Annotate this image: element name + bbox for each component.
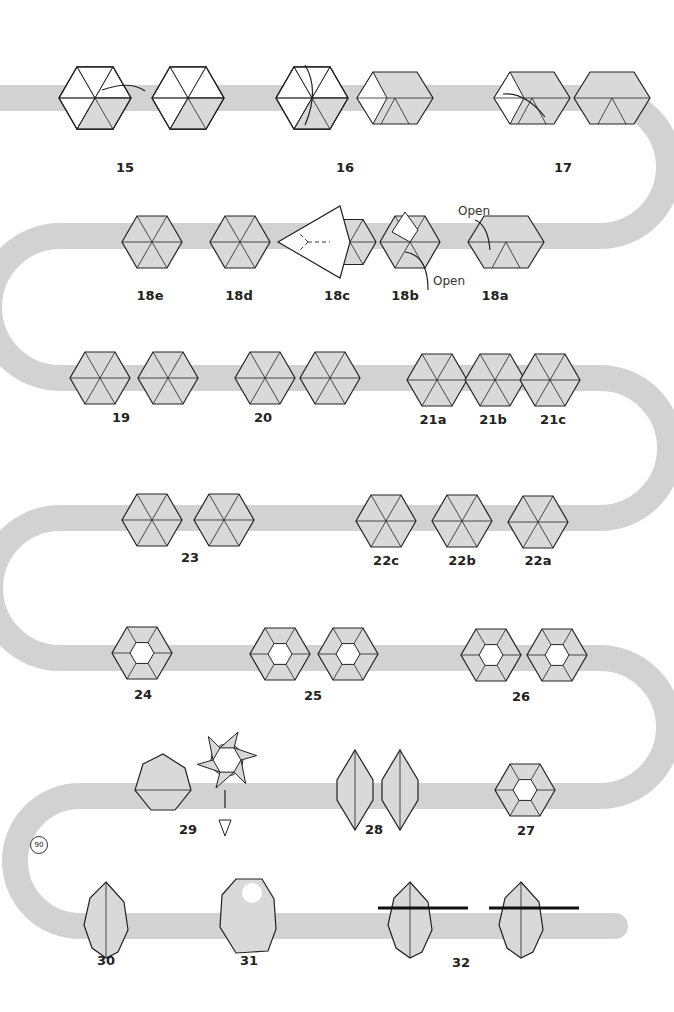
step-label-20: 20 xyxy=(254,410,272,425)
step-label-16: 16 xyxy=(336,160,354,175)
figure-hex-colored xyxy=(138,352,198,404)
figure-rhombus xyxy=(494,72,570,124)
arrows xyxy=(102,65,545,836)
figure-hex-colored xyxy=(235,352,295,404)
step-label-32: 32 xyxy=(452,955,470,970)
figure-hex-colored xyxy=(432,495,492,547)
figure-star xyxy=(197,732,256,788)
step-label-18c: 18c xyxy=(324,288,350,303)
figure-squeezed xyxy=(337,750,373,830)
figure-rhombus xyxy=(357,72,433,124)
figure-hex-center-open xyxy=(527,629,587,681)
step-label-18b: 18b xyxy=(391,288,418,303)
figure-hex-center-open xyxy=(250,628,310,680)
step-label-27: 27 xyxy=(517,823,535,838)
figure-squeezed xyxy=(382,750,418,830)
figure-hex-colored xyxy=(194,494,254,546)
figure-hex-colored xyxy=(465,354,525,406)
figure-hex-colored xyxy=(70,352,130,404)
figure-hex-colored xyxy=(407,354,467,406)
figure-parallelogram xyxy=(574,72,650,124)
figure-parallelogram xyxy=(468,216,544,268)
figure-egg xyxy=(84,882,128,958)
step-label-25: 25 xyxy=(304,688,322,703)
figure-hex-center-open xyxy=(461,629,521,681)
figure-hex-open xyxy=(380,212,440,268)
step-label-19: 19 xyxy=(112,410,130,425)
step-label-21b: 21b xyxy=(479,412,506,427)
step-label-31: 31 xyxy=(240,953,258,968)
rotate-90-icon: 90 xyxy=(30,836,48,854)
step-label-21a: 21a xyxy=(420,412,447,427)
step-label-18a: 18a xyxy=(482,288,509,303)
origami-diagram xyxy=(0,0,674,1012)
figure-ball-open xyxy=(220,879,276,953)
step-label-18e: 18e xyxy=(137,288,164,303)
figure-hex-colored xyxy=(356,495,416,547)
figure-kite xyxy=(278,206,376,278)
open-annotation-bottom: Open xyxy=(433,274,465,288)
figure-hex-center-open xyxy=(112,627,172,679)
figure-hex-colored xyxy=(508,496,568,548)
figure-hex-center-open xyxy=(318,628,378,680)
figure-hex-colored xyxy=(300,352,360,404)
step-label-22c: 22c xyxy=(373,553,399,568)
open-annotation-top: Open xyxy=(458,204,490,218)
step-label-28: 28 xyxy=(365,822,383,837)
figure-hex-mixed xyxy=(152,67,224,129)
step-label-29: 29 xyxy=(179,822,197,837)
step-label-26: 26 xyxy=(512,689,530,704)
step-label-30: 30 xyxy=(97,953,115,968)
figure-hex-colored xyxy=(520,354,580,406)
figure-hex-mixed xyxy=(59,67,131,129)
figure-hex-colored xyxy=(122,494,182,546)
step-label-22a: 22a xyxy=(525,553,552,568)
step-label-15: 15 xyxy=(116,160,134,175)
step-label-24: 24 xyxy=(134,687,152,702)
step-label-17: 17 xyxy=(554,160,572,175)
step-label-23: 23 xyxy=(181,550,199,565)
step-label-22b: 22b xyxy=(448,553,475,568)
step-label-21c: 21c xyxy=(540,412,566,427)
step-label-18d: 18d xyxy=(225,288,252,303)
